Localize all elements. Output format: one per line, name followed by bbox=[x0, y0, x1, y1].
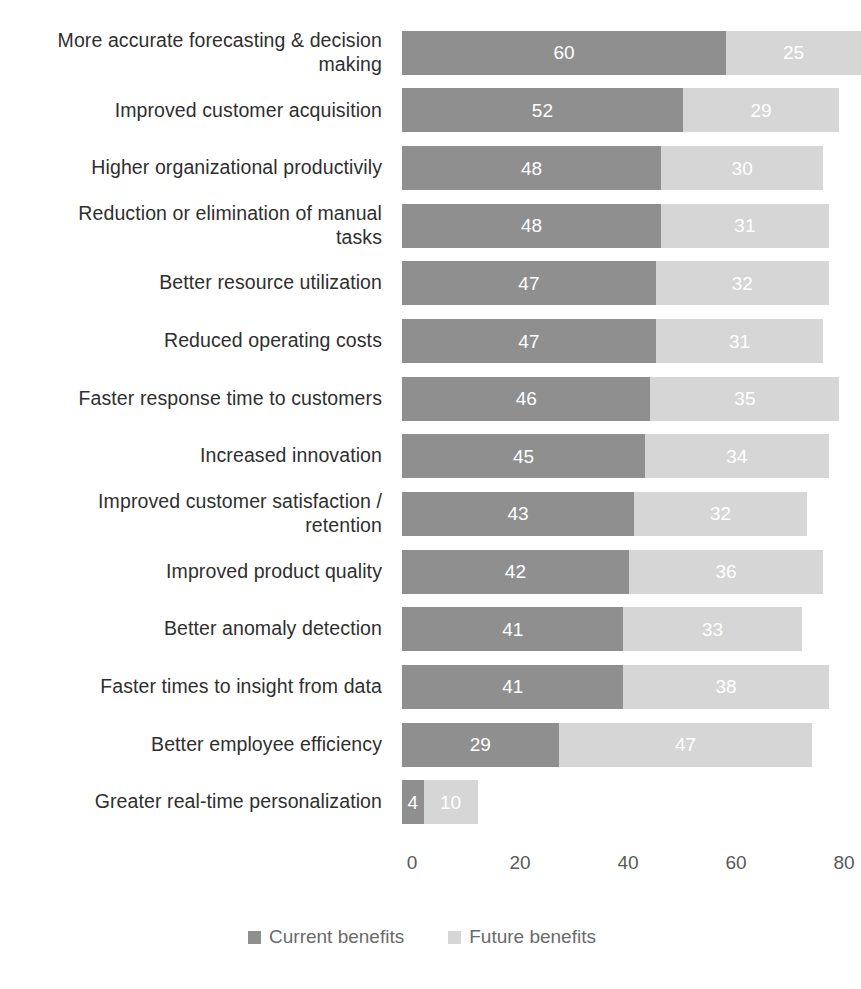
bar-segment-current[interactable]: 45 bbox=[402, 434, 645, 478]
bar-value-label: 34 bbox=[726, 447, 747, 466]
bar-segment-current[interactable]: 47 bbox=[402, 319, 656, 363]
bar-segment-future[interactable]: 10 bbox=[424, 780, 478, 824]
stacked-bar[interactable]: 4534 bbox=[402, 434, 829, 478]
bar-segment-current[interactable]: 46 bbox=[402, 377, 650, 421]
x-axis-tick-label: 20 bbox=[509, 852, 530, 874]
bar-segment-current[interactable]: 41 bbox=[402, 607, 623, 651]
bar-value-label: 43 bbox=[508, 504, 529, 523]
stacked-bar[interactable]: 4138 bbox=[402, 665, 829, 709]
bar-segment-future[interactable]: 32 bbox=[634, 492, 807, 536]
bar-track: 4138 bbox=[392, 658, 844, 716]
bar-value-label: 25 bbox=[783, 43, 804, 62]
stacked-bar[interactable]: 6025 bbox=[402, 31, 861, 75]
category-label: Reduced operating costs bbox=[0, 329, 392, 353]
stacked-bar[interactable]: 4731 bbox=[402, 319, 823, 363]
bar-segment-future[interactable]: 38 bbox=[623, 665, 828, 709]
bar-track: 4534 bbox=[392, 427, 844, 485]
bar-segment-future[interactable]: 31 bbox=[661, 204, 828, 248]
bar-value-label: 35 bbox=[734, 389, 755, 408]
bar-segment-current[interactable]: 48 bbox=[402, 204, 661, 248]
bar-segment-future[interactable]: 35 bbox=[650, 377, 839, 421]
bar-segment-future[interactable]: 31 bbox=[656, 319, 823, 363]
chart-row: Faster response time to customers4635 bbox=[0, 370, 844, 428]
bar-value-label: 45 bbox=[513, 447, 534, 466]
bar-value-label: 52 bbox=[532, 101, 553, 120]
stacked-bar[interactable]: 4332 bbox=[402, 492, 807, 536]
category-label: Faster times to insight from data bbox=[0, 675, 392, 699]
bar-segment-future[interactable]: 32 bbox=[656, 261, 829, 305]
chart-row: More accurate forecasting & decision mak… bbox=[0, 24, 844, 82]
stacked-bar[interactable]: 4635 bbox=[402, 377, 839, 421]
legend-label: Future benefits bbox=[469, 926, 596, 948]
bar-segment-current[interactable]: 52 bbox=[402, 88, 683, 132]
legend-item[interactable]: Future benefits bbox=[448, 926, 596, 948]
bar-value-label: 47 bbox=[518, 274, 539, 293]
bar-value-label: 47 bbox=[518, 332, 539, 351]
chart-row: Higher organizational productivily4830 bbox=[0, 139, 844, 197]
legend-label: Current benefits bbox=[269, 926, 404, 948]
bar-value-label: 32 bbox=[710, 504, 731, 523]
bar-segment-current[interactable]: 29 bbox=[402, 723, 559, 767]
bar-segment-current[interactable]: 60 bbox=[402, 31, 726, 75]
stacked-bar[interactable]: 4830 bbox=[402, 146, 823, 190]
bar-value-label: 30 bbox=[732, 159, 753, 178]
bar-segment-future[interactable]: 30 bbox=[661, 146, 823, 190]
bar-segment-current[interactable]: 47 bbox=[402, 261, 656, 305]
legend-item[interactable]: Current benefits bbox=[248, 926, 404, 948]
chart-row: Improved customer satisfaction / retenti… bbox=[0, 485, 844, 543]
bar-segment-current[interactable]: 43 bbox=[402, 492, 634, 536]
bar-track: 4731 bbox=[392, 312, 844, 370]
stacked-bar[interactable]: 2947 bbox=[402, 723, 812, 767]
stacked-bar[interactable]: 4133 bbox=[402, 607, 802, 651]
category-label: Better employee efficiency bbox=[0, 733, 392, 757]
chart-row: Reduced operating costs4731 bbox=[0, 312, 844, 370]
bar-segment-future[interactable]: 25 bbox=[726, 31, 861, 75]
bar-value-label: 32 bbox=[732, 274, 753, 293]
bar-track: 4732 bbox=[392, 255, 844, 313]
bar-value-label: 38 bbox=[715, 677, 736, 696]
bar-value-label: 60 bbox=[553, 43, 574, 62]
category-label: Improved product quality bbox=[0, 560, 392, 584]
x-axis-tick-label: 40 bbox=[617, 852, 638, 874]
category-label: Higher organizational productivily bbox=[0, 156, 392, 180]
category-label: Faster response time to customers bbox=[0, 387, 392, 411]
bar-segment-future[interactable]: 34 bbox=[645, 434, 829, 478]
bar-track: 6025 bbox=[392, 24, 844, 82]
bar-track: 4133 bbox=[392, 600, 844, 658]
bar-value-label: 4 bbox=[408, 793, 419, 812]
bar-track: 4236 bbox=[392, 543, 844, 601]
chart-row: Faster times to insight from data4138 bbox=[0, 658, 844, 716]
stacked-bar[interactable]: 4732 bbox=[402, 261, 829, 305]
bar-value-label: 29 bbox=[751, 101, 772, 120]
bar-segment-current[interactable]: 4 bbox=[402, 780, 424, 824]
chart-row: Better employee efficiency2947 bbox=[0, 716, 844, 774]
stacked-bar[interactable]: 5229 bbox=[402, 88, 839, 132]
category-label: Improved customer satisfaction / retenti… bbox=[0, 490, 392, 538]
bar-value-label: 29 bbox=[470, 735, 491, 754]
bar-segment-current[interactable]: 48 bbox=[402, 146, 661, 190]
bar-track: 4332 bbox=[392, 485, 844, 543]
bar-segment-current[interactable]: 42 bbox=[402, 550, 629, 594]
x-axis-tick-label: 60 bbox=[725, 852, 746, 874]
bar-value-label: 48 bbox=[521, 159, 542, 178]
bar-segment-future[interactable]: 33 bbox=[623, 607, 801, 651]
bar-value-label: 36 bbox=[715, 562, 736, 581]
chart-row: Increased innovation4534 bbox=[0, 427, 844, 485]
bar-track: 2947 bbox=[392, 716, 844, 774]
plot-area: More accurate forecasting & decision mak… bbox=[0, 0, 844, 845]
bar-segment-future[interactable]: 36 bbox=[629, 550, 823, 594]
chart-row: Better anomaly detection4133 bbox=[0, 600, 844, 658]
bar-segment-future[interactable]: 29 bbox=[683, 88, 840, 132]
stacked-bar[interactable]: 4236 bbox=[402, 550, 823, 594]
bar-segment-current[interactable]: 41 bbox=[402, 665, 623, 709]
legend-swatch-icon bbox=[248, 931, 261, 944]
stacked-bar[interactable]: 4831 bbox=[402, 204, 829, 248]
category-label: More accurate forecasting & decision mak… bbox=[0, 29, 392, 77]
chart-row: Improved product quality4236 bbox=[0, 543, 844, 601]
category-label: Better anomaly detection bbox=[0, 617, 392, 641]
stacked-bar[interactable]: 410 bbox=[402, 780, 478, 824]
bar-segment-future[interactable]: 47 bbox=[559, 723, 813, 767]
category-label: Greater real-time personalization bbox=[0, 790, 392, 814]
bar-value-label: 33 bbox=[702, 620, 723, 639]
